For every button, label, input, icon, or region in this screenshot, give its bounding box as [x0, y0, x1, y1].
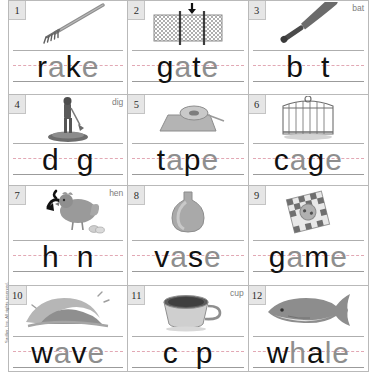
exercise-cell-1[interactable]: 1 rake [8, 0, 128, 95]
item-number: 4 [9, 95, 26, 114]
hint-word: cup [230, 288, 244, 298]
whale-icon [249, 287, 368, 333]
exercise-cell-5[interactable]: 5 tape [128, 95, 248, 186]
rake-icon [9, 2, 127, 48]
letter-trace: e [330, 242, 348, 272]
item-number: 11 [128, 286, 145, 305]
exercise-cell-10[interactable]: 10 wave [8, 286, 128, 372]
answer-word[interactable]: wave [13, 335, 123, 371]
letter-trace: a [170, 242, 188, 272]
answer-word[interactable]: rake [13, 49, 123, 85]
dig-icon [9, 96, 127, 142]
letter-solid: g [269, 242, 287, 272]
answer-word[interactable]: vase [132, 239, 243, 275]
tape-icon [128, 96, 247, 142]
handwriting-guide-lines: game [253, 240, 364, 274]
vase-icon [128, 187, 247, 237]
item-number: 12 [249, 286, 267, 305]
cage-icon [249, 96, 368, 142]
answer-word[interactable]: hn [13, 239, 123, 275]
letter-trace: a [174, 52, 192, 82]
letter-trace: a [286, 242, 304, 272]
handwriting-guide-lines: cage [253, 143, 364, 177]
exercise-cell-11[interactable]: 11cup cp [128, 286, 248, 372]
answer-word[interactable]: cage [253, 142, 364, 178]
hint-word: hen [109, 188, 123, 198]
item-number: 1 [9, 1, 26, 20]
handwriting-guide-lines: hn [13, 240, 123, 274]
letter-solid: b [286, 52, 304, 82]
handwriting-guide-lines: dg [13, 143, 123, 177]
letter-solid: h [42, 242, 60, 272]
answer-word[interactable]: gate [132, 49, 243, 85]
letter-solid: w [267, 338, 290, 368]
letter-solid: p [184, 145, 202, 175]
letter-trace: e [332, 338, 350, 368]
exercise-cell-3[interactable]: 3bat bt [249, 0, 369, 95]
answer-word[interactable]: dg [13, 142, 123, 178]
item-number: 7 [9, 186, 26, 205]
handwriting-guide-lines: bt [253, 50, 364, 84]
letter-solid: p [196, 338, 214, 368]
answer-word[interactable]: tape [132, 142, 243, 178]
letter-trace: a [54, 338, 72, 368]
letter-solid: k [66, 52, 82, 82]
letter-solid: g [307, 145, 325, 175]
handwriting-guide-lines: rake [13, 50, 123, 84]
exercise-cell-2[interactable]: 2 gate [128, 0, 248, 95]
copyright-notice: Sadlier, Inc. All rights reserved. [0, 282, 14, 372]
handwriting-guide-lines: wave [13, 336, 123, 370]
letter-trace: a [48, 52, 66, 82]
letter-solid: n [77, 242, 95, 272]
letter-trace: e [204, 242, 222, 272]
letter-trace: h [289, 338, 307, 368]
item-number: 6 [249, 95, 266, 114]
handwriting-guide-lines: vase [132, 240, 243, 274]
exercise-cell-9[interactable]: 9 game [249, 186, 369, 286]
item-number: 3 [249, 1, 266, 20]
exercise-cell-6[interactable]: 6 cage [249, 95, 369, 186]
exercise-cell-8[interactable]: 8 vase [128, 186, 248, 286]
answer-word[interactable]: bt [253, 49, 364, 85]
letter-solid: w [31, 338, 54, 368]
letter-solid: t [157, 145, 166, 175]
letter-solid: v [154, 242, 170, 272]
letter-solid: r [37, 52, 48, 82]
letter-solid: c [163, 338, 179, 368]
letter-solid: c [274, 145, 290, 175]
exercise-cell-4[interactable]: 4dig dg [8, 95, 128, 186]
letter-trace: e [202, 52, 220, 82]
letter-trace: e [325, 145, 343, 175]
letter-trace: e [82, 52, 100, 82]
letter-solid: d [42, 145, 60, 175]
copyright-text: Sadlier, Inc. All rights reserved. [5, 282, 9, 343]
game-icon [249, 187, 368, 237]
exercise-cell-12[interactable]: 12 whale [249, 286, 369, 372]
hint-word: dig [112, 97, 123, 107]
letter-solid: m [304, 242, 330, 272]
letter-trace: a [290, 145, 308, 175]
answer-word[interactable]: game [253, 239, 364, 275]
letter-solid: v [72, 338, 88, 368]
letter-trace: l [325, 338, 333, 368]
item-number: 5 [128, 95, 145, 114]
hint-word: bat [352, 3, 364, 13]
answer-word[interactable]: cp [132, 335, 243, 371]
letter-trace: a [166, 145, 184, 175]
letter-solid: t [192, 52, 201, 82]
letter-solid: g [77, 145, 95, 175]
handwriting-guide-lines: tape [132, 143, 243, 177]
letter-solid: t [321, 52, 330, 82]
exercise-grid: 1 rake2 gate3bat bt4dig dg5 tap [8, 0, 369, 372]
handwriting-guide-lines: gate [132, 50, 243, 84]
letter-trace: e [88, 338, 106, 368]
letter-solid: a [307, 338, 325, 368]
letter-trace: e [202, 145, 220, 175]
bat-icon [249, 2, 368, 48]
gate-icon [128, 2, 247, 48]
handwriting-guide-lines: whale [253, 336, 364, 370]
answer-word[interactable]: whale [253, 335, 364, 371]
worksheet-page: Sadlier, Inc. All rights reserved. 1 rak… [0, 0, 369, 372]
handwriting-guide-lines: cp [132, 336, 243, 370]
exercise-cell-7[interactable]: 7hen hn [8, 186, 128, 286]
